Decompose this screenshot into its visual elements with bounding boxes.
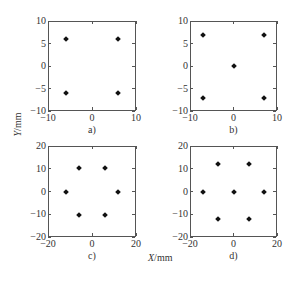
y-tick-label: 10 xyxy=(36,16,46,26)
panel-label: d) xyxy=(229,250,237,261)
y-tick-label: −10 xyxy=(30,209,46,219)
x-tick-mark xyxy=(92,107,93,110)
x-tick-label: 0 xyxy=(90,239,95,249)
x-tick-mark xyxy=(92,233,93,236)
y-tick-mark xyxy=(48,214,51,215)
x-tick-mark xyxy=(190,146,191,149)
plot-area-a xyxy=(48,21,136,111)
x-tick-mark xyxy=(277,107,278,110)
x-tick-label: 10 xyxy=(272,113,282,123)
x-tick-label: 0 xyxy=(231,113,236,123)
y-tick-label: 5 xyxy=(183,39,188,49)
x-tick-label: 20 xyxy=(272,239,282,249)
x-tick-mark xyxy=(136,107,137,110)
x-axis-label: X/mm xyxy=(148,252,172,263)
y-tick-label: −5 xyxy=(35,84,46,94)
y-axis-unit: /mm xyxy=(12,113,23,131)
x-tick-mark xyxy=(48,21,49,24)
x-tick-label: 0 xyxy=(90,113,95,123)
y-tick-label: −5 xyxy=(177,84,188,94)
panel-label: a) xyxy=(88,124,96,135)
y-tick-mark xyxy=(273,214,276,215)
y-tick-label: 20 xyxy=(36,141,46,151)
y-tick-mark xyxy=(132,88,135,89)
y-tick-mark xyxy=(48,191,51,192)
y-tick-mark xyxy=(132,168,135,169)
y-tick-label: 0 xyxy=(183,187,188,197)
y-tick-label: 5 xyxy=(41,39,46,49)
x-tick-mark xyxy=(92,21,93,24)
y-tick-label: 10 xyxy=(36,164,46,174)
y-tick-mark xyxy=(48,168,51,169)
y-tick-mark xyxy=(273,168,276,169)
y-tick-label: 0 xyxy=(41,187,46,197)
x-tick-label: −10 xyxy=(40,113,56,123)
y-tick-mark xyxy=(48,88,51,89)
x-tick-mark xyxy=(48,107,49,110)
y-tick-mark xyxy=(48,43,51,44)
x-tick-mark xyxy=(277,146,278,149)
y-tick-label: 0 xyxy=(183,61,188,71)
y-tick-label: 10 xyxy=(178,16,188,26)
x-tick-mark xyxy=(233,107,234,110)
y-tick-mark xyxy=(190,168,193,169)
x-axis-unit: /mm xyxy=(154,252,172,263)
y-tick-mark xyxy=(132,214,135,215)
x-tick-mark xyxy=(92,146,93,149)
x-tick-mark xyxy=(136,146,137,149)
y-tick-mark xyxy=(190,191,193,192)
x-tick-label: 0 xyxy=(231,239,236,249)
x-tick-mark xyxy=(233,146,234,149)
y-tick-mark xyxy=(190,66,193,67)
y-tick-label: −10 xyxy=(172,209,188,219)
panel-label: c) xyxy=(88,250,96,261)
x-tick-mark xyxy=(48,146,49,149)
x-tick-label: −10 xyxy=(182,113,198,123)
y-axis-var: Y xyxy=(12,131,23,137)
y-tick-mark xyxy=(273,43,276,44)
x-tick-mark xyxy=(190,233,191,236)
x-tick-mark xyxy=(136,233,137,236)
y-tick-mark xyxy=(190,43,193,44)
y-tick-label: 10 xyxy=(178,164,188,174)
y-axis-label: Y/mm xyxy=(12,113,23,137)
y-tick-mark xyxy=(273,88,276,89)
x-tick-label: −20 xyxy=(40,239,56,249)
x-tick-mark xyxy=(190,107,191,110)
y-tick-mark xyxy=(190,88,193,89)
x-tick-mark xyxy=(277,21,278,24)
x-tick-mark xyxy=(233,21,234,24)
x-tick-mark xyxy=(277,233,278,236)
x-tick-mark xyxy=(136,21,137,24)
y-tick-mark xyxy=(273,191,276,192)
y-tick-label: 20 xyxy=(178,141,188,151)
y-tick-label: 0 xyxy=(41,61,46,71)
y-tick-mark xyxy=(273,66,276,67)
x-tick-label: 10 xyxy=(131,113,141,123)
y-tick-mark xyxy=(132,66,135,67)
x-tick-mark xyxy=(233,233,234,236)
y-tick-mark xyxy=(132,191,135,192)
panel-label: b) xyxy=(229,124,237,135)
plot-area-c xyxy=(48,146,136,237)
x-tick-mark xyxy=(190,21,191,24)
x-tick-label: −20 xyxy=(182,239,198,249)
y-tick-mark xyxy=(190,214,193,215)
x-tick-mark xyxy=(48,233,49,236)
x-tick-label: 20 xyxy=(131,239,141,249)
y-tick-mark xyxy=(132,43,135,44)
y-tick-mark xyxy=(48,66,51,67)
